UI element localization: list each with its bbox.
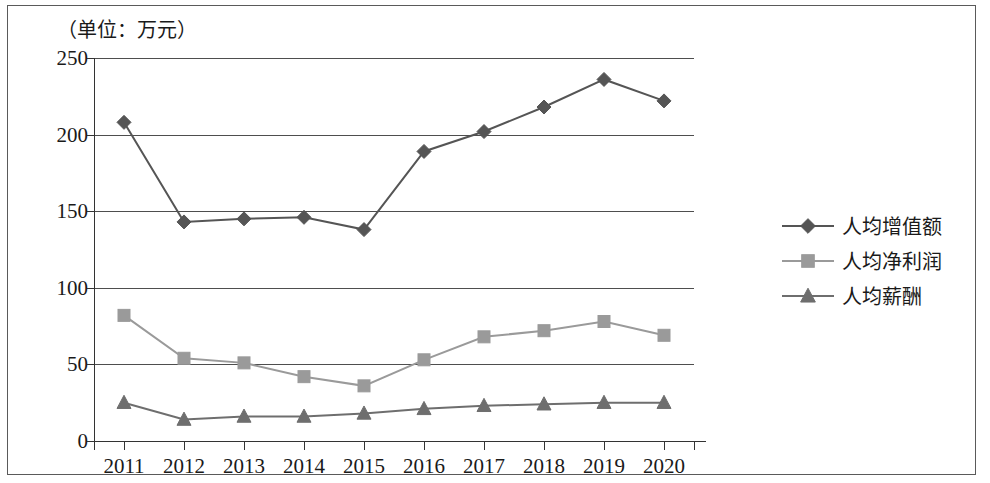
x-axis-tick — [544, 441, 545, 450]
legend-square-icon — [797, 250, 819, 272]
data-point-square — [802, 254, 815, 267]
unit-label: （单位：万元） — [57, 14, 197, 43]
y-axis-labels: 050100150200250 — [30, 58, 88, 441]
legend-label: 人均薪酬 — [834, 281, 922, 310]
legend-label: 人均增值额 — [834, 211, 942, 240]
y-axis-tick — [87, 288, 94, 289]
legend-diamond-icon — [797, 215, 819, 237]
legend-marker — [782, 215, 834, 237]
x-axis-tick — [694, 441, 695, 450]
y-axis-tick-label: 50 — [67, 354, 88, 375]
legend-item[interactable]: 人均增值额 — [782, 208, 972, 243]
data-point-triangle — [801, 288, 816, 302]
chart-figure: （单位：万元） 050100150200250 2011201220132014… — [0, 0, 990, 483]
x-axis-tick — [604, 441, 605, 450]
legend-item[interactable]: 人均净利润 — [782, 243, 972, 278]
legend-marker — [782, 285, 834, 307]
y-axis-tick — [87, 441, 94, 442]
y-axis-tick — [87, 58, 94, 59]
x-axis-tick — [664, 441, 665, 450]
x-axis-tick — [124, 441, 125, 450]
legend-item[interactable]: 人均薪酬 — [782, 278, 972, 313]
x-axis-tick — [364, 441, 365, 450]
x-axis-tick — [94, 441, 95, 450]
legend: 人均增值额人均净利润人均薪酬 — [782, 208, 972, 313]
y-axis-tick-label: 100 — [57, 278, 89, 299]
x-axis-tick — [484, 441, 485, 450]
y-axis-tick — [87, 364, 94, 365]
x-axis-tick-label: 2020 — [629, 456, 699, 477]
x-axis-labels: 2011201220132014201520162017201820192020 — [94, 58, 706, 483]
legend-marker — [782, 250, 834, 272]
data-point-diamond — [801, 218, 816, 233]
y-axis-tick-label: 200 — [57, 125, 89, 146]
x-axis-tick — [244, 441, 245, 450]
legend-label: 人均净利润 — [834, 246, 942, 275]
x-axis-tick — [424, 441, 425, 450]
legend-triangle-icon — [797, 285, 819, 307]
y-axis-tick-label: 250 — [57, 48, 89, 69]
y-axis-tick — [87, 135, 94, 136]
y-axis-tick — [87, 211, 94, 212]
x-axis-tick — [184, 441, 185, 450]
y-axis-tick-label: 150 — [57, 201, 89, 222]
x-axis-tick — [304, 441, 305, 450]
